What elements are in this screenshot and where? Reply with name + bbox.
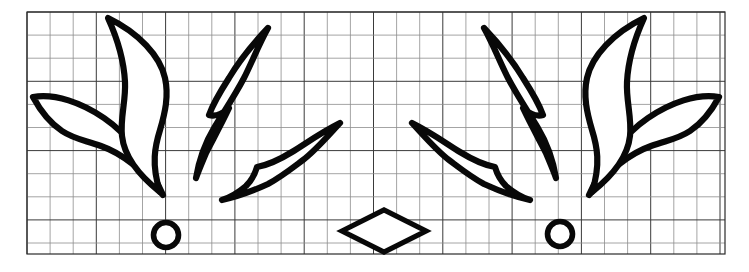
circle-right [548, 222, 573, 247]
circle-left [154, 223, 179, 248]
leaf-motif-figure [0, 0, 749, 272]
drawing-canvas [0, 0, 749, 272]
